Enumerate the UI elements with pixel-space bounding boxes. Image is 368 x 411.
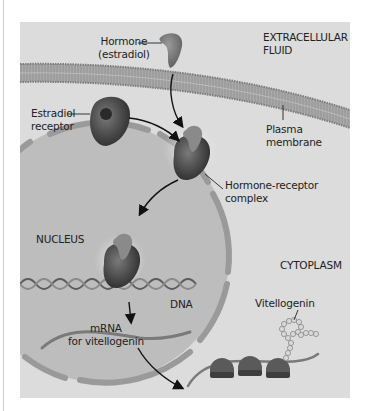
mrna-label: mRNA for vitellogenin — [68, 322, 144, 347]
extracellular-label-line2: FLUID — [263, 44, 348, 57]
plasma-label-line2: membrane — [266, 136, 322, 149]
hormone-label-line1: Hormone — [98, 35, 150, 48]
complex-label-line2: complex — [225, 192, 318, 205]
complex-label-line1: Hormone-receptor — [225, 179, 318, 192]
nucleus-label: NUCLEUS — [36, 233, 84, 246]
extracellular-label-line1: EXTRACELLULAR — [263, 31, 348, 44]
hormone-receptor-complex-label: Hormone-receptor complex — [225, 179, 318, 204]
vitellogenin-label: Vitellogenin — [255, 297, 315, 310]
receptor-label-line2: receptor — [31, 120, 75, 133]
page-edge — [3, 0, 4, 411]
hormone-label: Hormone (estradiol) — [98, 35, 150, 60]
plasma-membrane-label: Plasma membrane — [266, 123, 322, 148]
ribosomes — [210, 356, 290, 378]
vitellogenin-chain — [279, 317, 318, 360]
cytoplasm-label: CYTOPLASM — [280, 259, 342, 272]
dna-label: DNA — [170, 298, 193, 311]
estradiol-receptor-label: Estradiol receptor — [31, 107, 75, 132]
mrna-label-line1: mRNA — [68, 322, 144, 335]
receptor-label-line1: Estradiol — [31, 107, 75, 120]
mrna-label-line2: for vitellogenin — [68, 335, 144, 348]
hormone-label-line2: (estradiol) — [98, 48, 150, 61]
hormone-estradiol-shape — [159, 33, 182, 68]
diagram-panel: Hormone (estradiol) EXTRACELLULAR FLUID … — [20, 22, 350, 398]
extracellular-fluid-label: EXTRACELLULAR FLUID — [263, 31, 348, 56]
plasma-label-line1: Plasma — [266, 123, 322, 136]
